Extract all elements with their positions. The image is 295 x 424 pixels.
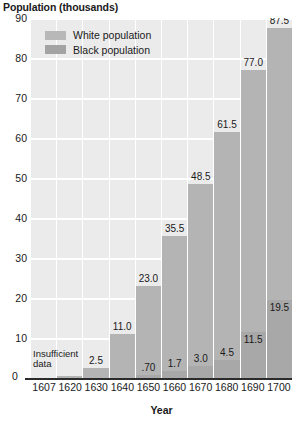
x-tick-label-1640: 1640 xyxy=(109,382,135,393)
x-tick-label-1620: 1620 xyxy=(57,382,83,393)
legend-swatch-white-icon xyxy=(45,31,66,40)
x-axis-ticks: 1607162016301640165016601670168016901700 xyxy=(31,382,292,393)
y-tick-label-60: 60 xyxy=(15,133,27,144)
y-tick-label-80: 80 xyxy=(15,53,27,64)
legend-item-black-population: Black population xyxy=(45,45,151,56)
y-tick-label-50: 50 xyxy=(15,173,27,184)
x-tick-label-1650: 1650 xyxy=(135,382,161,393)
insufficient-data-note: Insufficient data xyxy=(33,349,78,370)
x-tick-label-1700: 1700 xyxy=(266,382,292,393)
y-tick-label-70: 70 xyxy=(15,93,27,104)
legend-item-white-population: White population xyxy=(45,30,151,41)
y-tick-zero: 0 xyxy=(12,371,18,382)
y-tick-label-40: 40 xyxy=(15,213,27,224)
x-tick-label-1607: 1607 xyxy=(31,382,57,393)
y-tick-label-10: 10 xyxy=(15,333,27,344)
y-tick-label-30: 30 xyxy=(15,253,27,264)
y-tick-label-90: 90 xyxy=(15,13,27,24)
x-tick-label-1660: 1660 xyxy=(161,382,187,393)
x-tick-label-1670: 1670 xyxy=(188,382,214,393)
x-axis-line xyxy=(25,378,292,380)
insufficient-data-line2: data xyxy=(33,359,78,370)
x-tick-label-1630: 1630 xyxy=(83,382,109,393)
chart-legend: White population Black population xyxy=(45,30,151,59)
x-axis-title: Year xyxy=(31,404,292,416)
y-tick-label-20: 20 xyxy=(15,293,27,304)
legend-label-white: White population xyxy=(73,30,151,41)
legend-label-black: Black population xyxy=(73,45,150,56)
population-chart: Population (thousands) 2.511.023.0.7035.… xyxy=(0,0,295,424)
x-tick-label-1680: 1680 xyxy=(214,382,240,393)
legend-swatch-black-icon xyxy=(45,45,66,54)
y-axis-ticks: 102030405060708090 xyxy=(31,18,292,378)
x-tick-label-1690: 1690 xyxy=(240,382,266,393)
